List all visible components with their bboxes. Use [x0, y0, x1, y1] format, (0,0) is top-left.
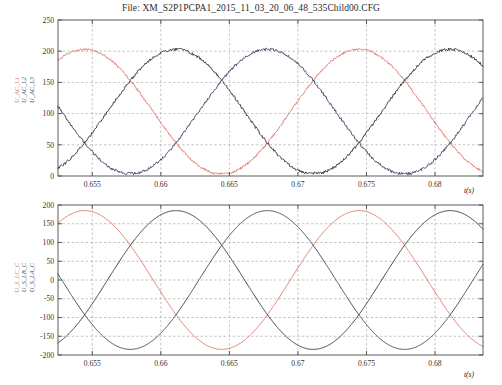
x-tick-label: 0.665: [221, 180, 238, 189]
lower-plot-panel: -200-150-100-500501001502000.6550.660.66…: [0, 195, 502, 385]
upper-x-axis-label: t(s): [464, 186, 474, 195]
y-tick-label: 200: [43, 47, 55, 56]
lower-x-axis-label: t(s): [464, 370, 474, 379]
lower-plot-svg: -200-150-100-500501001502000.6550.660.66…: [0, 195, 502, 385]
y-tick-label: 100: [43, 238, 55, 247]
x-tick-label: 0.67: [291, 359, 304, 368]
y-tick-label: 50: [46, 141, 54, 150]
x-tick-label: 0.67: [291, 180, 304, 189]
y-tick-label: 150: [43, 219, 55, 228]
y-tick-label: 250: [43, 16, 55, 25]
upper-plot-svg: 0501001502002500.6550.660.6650.670.6750.…: [0, 0, 502, 200]
y-tick-label: -150: [40, 332, 54, 341]
y-tick-label: -200: [40, 351, 54, 360]
x-tick-label: 0.655: [84, 359, 101, 368]
y-tick-label: 100: [43, 109, 55, 118]
waveform-figure: File: XM_S2P1PCPA1_2015_11_03_20_06_48_5…: [0, 0, 502, 385]
x-tick-label: 0.675: [358, 180, 375, 189]
x-tick-label: 0.675: [358, 359, 375, 368]
y-tick-label: -100: [40, 313, 54, 322]
y-tick-label: 50: [46, 257, 54, 266]
upper-plot-panel: 0501001502002500.6550.660.6650.670.6750.…: [0, 0, 502, 200]
x-tick-label: 0.665: [221, 359, 238, 368]
y-tick-label: 150: [43, 78, 55, 87]
x-tick-label: 0.68: [428, 359, 441, 368]
y-tick-label: -50: [44, 294, 54, 303]
x-tick-label: 0.66: [154, 359, 167, 368]
x-tick-label: 0.66: [154, 180, 167, 189]
y-tick-label: 0: [50, 276, 54, 285]
y-tick-label: 200: [43, 201, 55, 210]
y-tick-label: 0: [50, 172, 54, 181]
x-tick-label: 0.655: [84, 180, 101, 189]
x-tick-label: 0.68: [428, 180, 441, 189]
